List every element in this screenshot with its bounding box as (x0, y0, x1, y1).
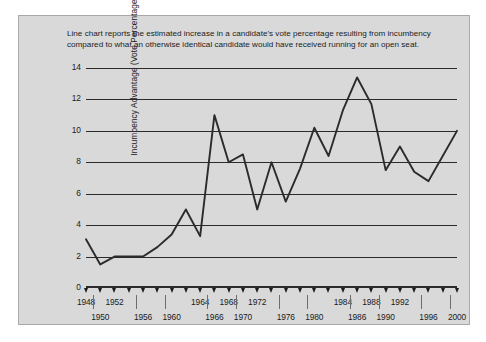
x-tick-mark (155, 288, 159, 293)
x-tick-mark (355, 288, 359, 293)
x-tick-separator (236, 295, 237, 309)
x-tick-mark (412, 288, 416, 293)
x-tick-mark (326, 288, 330, 293)
x-tick-label: 1952 (97, 297, 133, 307)
x-tick-mark (298, 288, 302, 293)
x-tick-mark (384, 288, 388, 293)
x-axis: 1948195019521954195619581960196219641966… (69, 288, 457, 340)
x-tick-separator (136, 295, 137, 309)
line-series-svg (69, 68, 457, 288)
figure-panel: Line chart reports the estimated increas… (18, 15, 470, 325)
x-tick-mark (455, 288, 459, 293)
x-tick-separator (421, 295, 422, 309)
x-tick-mark (184, 288, 188, 293)
x-tick-label: 1960 (154, 312, 190, 322)
line-series-path (86, 77, 457, 264)
x-tick-label: 2000 (439, 312, 475, 322)
y-axis-title: Incumbency Advantage (Vote Percentage) (33, 0, 47, 76)
x-tick-label: 1972 (239, 297, 275, 307)
x-tick-separator (207, 295, 208, 309)
chart-plot-area: Incumbency Advantage (Vote Percentage) 0… (69, 68, 457, 288)
x-tick-mark (341, 288, 345, 293)
x-tick-label: 1990 (368, 312, 404, 322)
x-tick-mark (212, 288, 216, 293)
x-tick-label: 1980 (296, 312, 332, 322)
x-tick-mark (198, 288, 202, 293)
x-tick-mark (398, 288, 402, 293)
x-tick-mark (98, 288, 102, 293)
x-tick-mark (369, 288, 373, 293)
x-tick-mark (312, 288, 316, 293)
x-tick-label: 1992 (382, 297, 418, 307)
x-tick-separator (450, 295, 451, 309)
x-tick-mark (112, 288, 116, 293)
x-tick-separator (165, 295, 166, 309)
x-tick-mark (255, 288, 259, 293)
x-tick-mark (269, 288, 273, 293)
x-tick-label: 1970 (225, 312, 261, 322)
x-tick-separator (379, 295, 380, 309)
x-tick-mark (127, 288, 131, 293)
x-tick-separator (279, 295, 280, 309)
x-tick-separator (307, 295, 308, 309)
x-tick-mark (241, 288, 245, 293)
x-tick-mark (441, 288, 445, 293)
x-tick-separator (350, 295, 351, 309)
x-tick-mark (426, 288, 430, 293)
x-tick-mark (227, 288, 231, 293)
x-tick-label: 1950 (82, 312, 118, 322)
x-tick-mark (84, 288, 88, 293)
x-tick-mark (284, 288, 288, 293)
figure-caption: Line chart reports the estimated increas… (67, 28, 442, 51)
x-tick-separator (93, 295, 94, 309)
x-tick-mark (170, 288, 174, 293)
x-tick-mark (141, 288, 145, 293)
